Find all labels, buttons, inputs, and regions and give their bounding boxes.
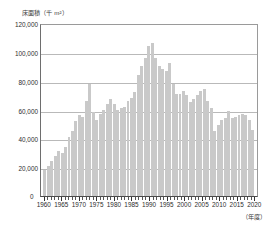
y-axis-tick-labels: 120,000100,00080,00060,00040,00020,000 <box>0 24 38 197</box>
y-axis-tick-label: 40,000 <box>18 136 38 143</box>
x-axis-minor-tick <box>124 197 125 200</box>
x-axis-tick-label: 1970 <box>72 201 86 208</box>
x-axis-tick-label: 2005 <box>195 201 209 208</box>
x-axis-minor-tick <box>117 197 118 200</box>
x-axis-minor-tick <box>177 197 178 200</box>
x-axis-minor-tick <box>138 197 139 200</box>
x-axis-minor-tick <box>100 197 101 200</box>
x-axis-minor-tick <box>75 197 76 200</box>
x-axis-tick-label: 1995 <box>159 201 173 208</box>
x-axis-minor-tick <box>107 197 108 200</box>
y-axis-tick-label: 120,000 <box>15 21 38 28</box>
x-axis-minor-tick <box>82 197 83 200</box>
x-axis-minor-tick <box>240 197 241 200</box>
x-axis-minor-tick <box>68 197 69 200</box>
x-axis-minor-tick <box>226 197 227 200</box>
x-axis-minor-tick <box>230 197 231 200</box>
x-axis-minor-tick <box>128 197 129 200</box>
floor-area-bar-chart: 床面積（千 m²） 120,000100,00080,00060,00040,0… <box>0 0 274 229</box>
x-axis-minor-tick <box>54 197 55 200</box>
y-axis-tick-label: 80,000 <box>18 78 38 85</box>
y-axis-unit-label: 床面積（千 m²） <box>22 8 68 17</box>
x-axis-minor-tick <box>160 197 161 200</box>
x-axis-unit-label: （年度） <box>242 212 266 221</box>
x-axis-tick-labels: 1960196519701975198019851990199520002005… <box>0 201 274 213</box>
x-axis-minor-tick <box>142 197 143 200</box>
x-axis-tick-label: 1965 <box>54 201 68 208</box>
x-axis-tick-label: 2015 <box>230 201 244 208</box>
x-axis-tick-label: 2020 <box>247 201 261 208</box>
x-axis-minor-tick <box>103 197 104 200</box>
x-axis-minor-tick <box>198 197 199 200</box>
x-axis-minor-tick <box>51 197 52 200</box>
x-axis-minor-tick <box>72 197 73 200</box>
x-axis-tick-label: 1980 <box>107 201 121 208</box>
x-axis-minor-tick <box>86 197 87 200</box>
x-axis-minor-tick <box>93 197 94 200</box>
x-axis-minor-tick <box>170 197 171 200</box>
x-axis-minor-tick <box>174 197 175 200</box>
x-axis-tick-label: 1960 <box>37 201 51 208</box>
x-axis-minor-tick <box>233 197 234 200</box>
x-axis-tick-label: 1990 <box>142 201 156 208</box>
x-axis-minor-tick <box>212 197 213 200</box>
x-axis-tick-label: 2010 <box>212 201 226 208</box>
x-axis-minor-tick <box>251 197 252 200</box>
x-axis-minor-tick <box>135 197 136 200</box>
x-axis-minor-tick <box>209 197 210 200</box>
x-axis-tick-label: 1985 <box>124 201 138 208</box>
x-axis-minor-tick <box>163 197 164 200</box>
y-axis-tick-label: 100,000 <box>15 49 38 56</box>
bar-series <box>41 25 257 196</box>
x-axis-minor-tick <box>181 197 182 200</box>
y-axis-zero-label: 0 <box>30 193 34 200</box>
x-axis-minor-tick <box>121 197 122 200</box>
x-axis-minor-tick <box>156 197 157 200</box>
x-axis-minor-tick <box>247 197 248 200</box>
x-axis-tick-label: 2000 <box>177 201 191 208</box>
x-axis-minor-tick <box>195 197 196 200</box>
x-axis-minor-tick <box>65 197 66 200</box>
x-axis-minor-tick <box>145 197 146 200</box>
x-axis-minor-tick <box>244 197 245 200</box>
x-axis-minor-tick <box>110 197 111 200</box>
x-axis-minor-tick <box>153 197 154 200</box>
bar <box>251 130 254 196</box>
x-axis-minor-tick <box>58 197 59 200</box>
x-axis-minor-tick <box>216 197 217 200</box>
x-axis-minor-tick <box>188 197 189 200</box>
x-axis-minor-tick <box>89 197 90 200</box>
x-axis-minor-tick <box>47 197 48 200</box>
plot-area <box>40 24 258 197</box>
y-axis-tick-label: 60,000 <box>18 107 38 114</box>
y-axis-tick-label: 20,000 <box>18 165 38 172</box>
x-axis-minor-tick <box>205 197 206 200</box>
x-axis-minor-tick <box>223 197 224 200</box>
x-axis-tick-label: 1975 <box>89 201 103 208</box>
x-axis-minor-tick <box>191 197 192 200</box>
